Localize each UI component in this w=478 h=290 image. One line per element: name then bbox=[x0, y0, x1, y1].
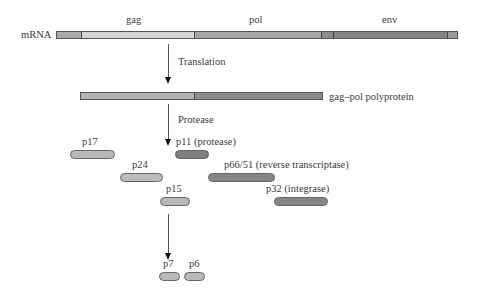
polyprotein-bar bbox=[80, 92, 323, 100]
protein-label-p17: p17 bbox=[82, 136, 98, 148]
mrna-env-segment bbox=[333, 32, 447, 38]
protein-label-p15: p15 bbox=[166, 183, 182, 195]
mrna-bar bbox=[56, 31, 458, 39]
mrna-pol-segment bbox=[194, 32, 321, 38]
mrna-label: mRNA bbox=[21, 29, 51, 41]
protein-p15 bbox=[160, 197, 190, 206]
polyprotein-gag-segment bbox=[81, 93, 194, 99]
gene-label-gag: gag bbox=[126, 14, 141, 26]
protein-p6 bbox=[184, 272, 205, 281]
protein-label-p24: p24 bbox=[132, 159, 148, 171]
protein-p11 bbox=[175, 150, 209, 159]
protein-label-p7: p7 bbox=[163, 258, 174, 270]
polyprotein-pol-segment bbox=[194, 93, 322, 99]
protease-label: Protease bbox=[178, 114, 214, 126]
mrna-gag-segment bbox=[81, 32, 194, 38]
protein-label-p11: p11 (protease) bbox=[176, 136, 236, 148]
translation-label: Translation bbox=[178, 56, 225, 68]
protein-p24 bbox=[120, 173, 163, 182]
protein-label-p66-51: p66/51 (reverse transcriptase) bbox=[224, 159, 349, 171]
polyprotein-label: gag–pol polyprotein bbox=[329, 91, 414, 103]
mrna-5prime-ltr bbox=[57, 32, 81, 38]
cleavage-arrow-icon bbox=[168, 214, 169, 254]
mrna-spacer-segment bbox=[321, 32, 333, 38]
protein-p32 bbox=[274, 197, 328, 206]
protein-p7 bbox=[159, 272, 180, 281]
gene-label-env: env bbox=[382, 14, 397, 26]
protein-p17 bbox=[70, 150, 115, 159]
protease-arrow-icon bbox=[168, 104, 169, 140]
mrna-3prime-ltr bbox=[447, 32, 457, 38]
protein-label-p6: p6 bbox=[189, 258, 200, 270]
translation-arrow-icon bbox=[168, 44, 169, 78]
gene-label-pol: pol bbox=[249, 14, 262, 26]
protein-p66-51 bbox=[208, 173, 275, 182]
protein-label-p32: p32 (integrase) bbox=[266, 183, 329, 195]
